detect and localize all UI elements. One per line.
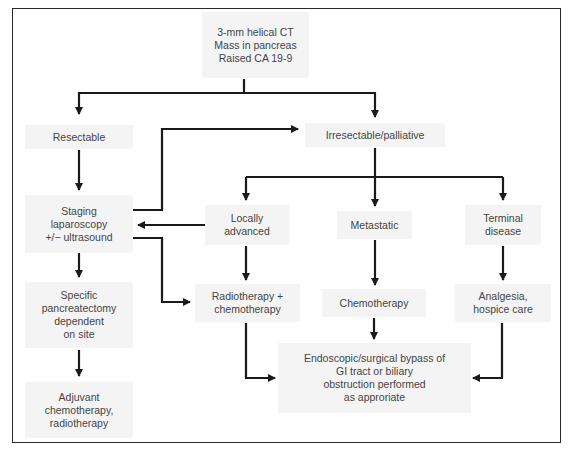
edge-staging-to-irresectable — [133, 129, 298, 210]
node-radio-chemo-label: Radiotherapy + chemotherapy — [212, 290, 284, 316]
edge-radiochemo-to-bypass — [246, 323, 275, 378]
node-pancreatectomy: Specific pancreatectomy dependent on sit… — [25, 282, 133, 348]
node-bypass-label: Endoscopic/surgical bypass of GI tract o… — [304, 352, 445, 404]
node-analgesia-label: Analgesia, hospice care — [473, 290, 533, 316]
node-terminal: Terminal disease — [465, 205, 541, 245]
node-resectable-label: Resectable — [53, 131, 106, 144]
node-start: 3-mm helical CT Mass in pancreas Raised … — [202, 12, 309, 78]
edge-staging-to-radiochemo — [133, 238, 190, 302]
node-metastatic-label: Metastatic — [351, 219, 399, 232]
node-staging-label: Staging laparoscopy +/− ultrasound — [45, 205, 112, 244]
node-locally-advanced: Locally advanced — [205, 205, 289, 245]
node-chemotherapy-label: Chemotherapy — [340, 297, 409, 310]
edge-analgesia-to-bypass — [473, 323, 502, 378]
node-pancreatectomy-label: Specific pancreatectomy dependent on sit… — [42, 289, 117, 341]
node-radio-chemo: Radiotherapy + chemotherapy — [195, 284, 300, 322]
node-analgesia: Analgesia, hospice care — [455, 284, 551, 322]
node-resectable: Resectable — [25, 125, 133, 149]
node-terminal-label: Terminal disease — [483, 212, 523, 238]
node-metastatic: Metastatic — [337, 211, 412, 239]
node-staging: Staging laparoscopy +/− ultrasound — [25, 195, 133, 253]
edge-start-to-resectable — [79, 93, 244, 114]
node-chemotherapy: Chemotherapy — [322, 289, 426, 317]
node-irresectable-label: Irresectable/palliative — [326, 129, 425, 142]
node-irresectable: Irresectable/palliative — [305, 123, 445, 147]
node-adjuvant-label: Adjuvant chemotherapy, radiotherapy — [45, 391, 114, 430]
edge-start-to-irresectable — [244, 93, 375, 117]
node-locally-advanced-label: Locally advanced — [224, 212, 270, 238]
node-adjuvant: Adjuvant chemotherapy, radiotherapy — [25, 382, 133, 438]
node-start-label: 3-mm helical CT Mass in pancreas Raised … — [214, 26, 296, 65]
node-bypass: Endoscopic/surgical bypass of GI tract o… — [278, 343, 471, 413]
